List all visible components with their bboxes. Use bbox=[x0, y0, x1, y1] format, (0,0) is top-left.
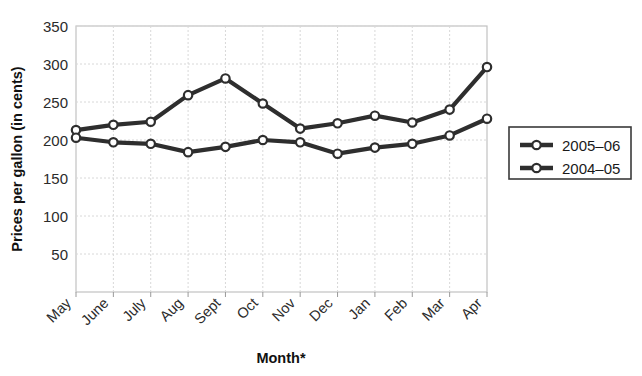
x-axis-title: Month* bbox=[256, 350, 305, 366]
data-point-marker bbox=[72, 134, 80, 142]
series-line bbox=[76, 67, 487, 130]
data-point-marker bbox=[371, 143, 379, 151]
chart-figure: 50100150200250300350 MayJuneJulyAugSeptO… bbox=[0, 0, 642, 376]
data-point-marker bbox=[221, 143, 229, 151]
x-tick-label: July bbox=[119, 294, 149, 324]
data-point-marker bbox=[259, 136, 267, 144]
x-tick-label: Sept bbox=[191, 295, 223, 327]
data-point-marker bbox=[408, 140, 416, 148]
data-point-marker bbox=[147, 140, 155, 148]
data-series-layer bbox=[72, 63, 491, 158]
data-point-marker bbox=[147, 118, 155, 126]
x-tick-label: Mar bbox=[419, 295, 448, 324]
x-tick-label: June bbox=[78, 295, 112, 329]
y-tick-label: 100 bbox=[43, 208, 68, 225]
chart-legend: 2005–062004–05 bbox=[509, 127, 631, 179]
data-point-marker bbox=[184, 91, 192, 99]
data-point-marker bbox=[109, 138, 117, 146]
data-point-marker bbox=[221, 74, 229, 82]
y-tick-label: 50 bbox=[51, 246, 68, 263]
x-tick-label: Feb bbox=[381, 295, 410, 324]
legend-swatch-marker bbox=[532, 164, 540, 172]
x-tick-label: Nov bbox=[269, 294, 299, 324]
x-tick-label: Aug bbox=[157, 295, 187, 325]
x-tick-label: Oct bbox=[234, 295, 261, 322]
data-point-marker bbox=[184, 148, 192, 156]
data-point-marker bbox=[445, 131, 453, 139]
y-tick-label: 300 bbox=[43, 56, 68, 73]
y-tick-label: 200 bbox=[43, 132, 68, 149]
y-axis-tick-labels: 50100150200250300350 bbox=[43, 18, 68, 263]
data-point-marker bbox=[371, 111, 379, 119]
x-tick-label: May bbox=[43, 294, 74, 325]
line-chart: 50100150200250300350 MayJuneJulyAugSeptO… bbox=[0, 0, 642, 376]
data-point-marker bbox=[408, 118, 416, 126]
data-point-marker bbox=[109, 121, 117, 129]
x-tick-label: Jan bbox=[345, 295, 373, 323]
y-axis-title: Prices per gallon (in cents) bbox=[9, 66, 25, 251]
legend-label: 2005–06 bbox=[562, 137, 620, 154]
legend-swatch-marker bbox=[532, 141, 540, 149]
data-point-marker bbox=[259, 99, 267, 107]
data-point-marker bbox=[333, 119, 341, 127]
data-point-marker bbox=[483, 63, 491, 71]
data-point-marker bbox=[483, 115, 491, 123]
y-tick-label: 250 bbox=[43, 94, 68, 111]
y-tick-label: 350 bbox=[43, 18, 68, 35]
plot-area-frame bbox=[76, 26, 487, 292]
data-point-marker bbox=[296, 124, 304, 132]
legend-label: 2004–05 bbox=[562, 160, 620, 177]
series-1 bbox=[72, 63, 491, 134]
x-tick-label: Apr bbox=[458, 295, 485, 322]
x-axis-tick-labels: MayJuneJulyAugSeptOctNovDecJanFebMarApr bbox=[43, 294, 485, 328]
y-tick-label: 150 bbox=[43, 170, 68, 187]
data-point-marker bbox=[333, 149, 341, 157]
data-point-marker bbox=[445, 105, 453, 113]
data-point-marker bbox=[296, 138, 304, 146]
x-gridlines bbox=[113, 26, 449, 292]
x-tick-label: Dec bbox=[306, 295, 336, 325]
